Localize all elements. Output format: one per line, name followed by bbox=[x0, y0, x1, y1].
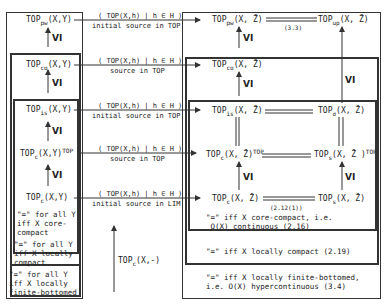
node-base: TOP bbox=[212, 106, 226, 115]
node-base: TOP bbox=[314, 150, 328, 159]
right-node-pw: TOPpw(X, Z̄) bbox=[212, 15, 263, 24]
node-sup: TOP bbox=[62, 147, 73, 154]
right-node-is: TOPis(X, Z̄) bbox=[212, 106, 263, 115]
node-sup: TOP bbox=[253, 148, 264, 155]
node-base: TOP bbox=[26, 105, 40, 114]
node-sub: up bbox=[332, 19, 339, 26]
node-arg: (X, Z̄) bbox=[230, 194, 259, 203]
right-vi-2: VI bbox=[243, 79, 253, 89]
mid-family-2: ( TOP(X,h) | h ∈ H ) bbox=[98, 57, 182, 65]
right-vi-3: VI bbox=[243, 172, 253, 182]
node-arg: (X, Z̄) bbox=[336, 194, 365, 203]
right-vi-4: VI bbox=[345, 172, 355, 182]
node-base: TOP bbox=[20, 149, 34, 158]
node-sub: pw bbox=[226, 19, 233, 26]
left-node-c-top: TOPc(X,Y)TOP bbox=[20, 149, 73, 158]
right-note-core-compact: "=" iff X core-compact, i.e. O(X) contin… bbox=[206, 213, 332, 231]
node-base: TOP bbox=[318, 15, 332, 24]
mid-caption-5: initial source in LIM bbox=[92, 200, 181, 208]
left-vi-2: VI bbox=[52, 78, 62, 88]
node-sub: pw bbox=[40, 19, 47, 26]
right-node-up: TOPup(X, Z̄) bbox=[318, 15, 369, 24]
node-sub: is bbox=[40, 109, 47, 116]
left-node-c: TOPc(X,Y) bbox=[26, 193, 68, 202]
ref-3-3: (3.3) bbox=[284, 24, 302, 31]
right-node-c: TOPc(X, Z̄) bbox=[212, 194, 259, 203]
left-vi-1: VI bbox=[52, 33, 62, 43]
node-arg: (X,Y) bbox=[38, 149, 62, 158]
node-sup: TOP bbox=[366, 148, 377, 155]
right-node-co: TOPco(X, Z̄) bbox=[212, 60, 263, 69]
node-base: TOP bbox=[26, 193, 40, 202]
node-base: TOP bbox=[212, 194, 226, 203]
mid-family-5: ( TOP(X,h) | h ∈ H ) bbox=[98, 190, 182, 198]
left-note-locally-compact: "=" for all Y iff X locally compact bbox=[14, 240, 73, 267]
right-node-s: TOPs(X, Z̄) bbox=[318, 194, 365, 203]
node-arg: (X, Z̄) bbox=[234, 106, 263, 115]
node-arg: (X, Z̄) bbox=[234, 15, 263, 24]
right-note-locally-compact: "=" iff X locally compact (2.19) bbox=[206, 247, 351, 256]
left-note-core-compact: "=" for all Y iff X core- compact bbox=[17, 210, 76, 237]
node-arg: (X, Z̄) bbox=[336, 106, 365, 115]
mid-family-1: ( TOP(X,h) | h ∈ H ) bbox=[98, 12, 182, 20]
node-sub: is bbox=[226, 110, 233, 117]
node-arg: (X,Y) bbox=[44, 193, 68, 202]
mid-caption-4: source in TOP bbox=[110, 155, 165, 163]
node-base: TOP bbox=[318, 194, 332, 203]
node-base: TOP bbox=[26, 15, 40, 24]
mid-family-3: ( TOP(X,h) | h ∈ H ) bbox=[98, 102, 182, 110]
node-base: TOP bbox=[206, 150, 220, 159]
node-sub: co bbox=[226, 64, 233, 71]
node-arg: (X, Z̄) bbox=[340, 15, 369, 24]
left-note-locally-finite-bottomed: "=" for all Y iff X locally finite-botto… bbox=[9, 270, 77, 297]
right-vi-1: VI bbox=[243, 33, 253, 43]
node-base: TOP bbox=[118, 256, 132, 265]
node-arg: (X,-) bbox=[136, 256, 160, 265]
node-arg: (X, Z̄ ) bbox=[332, 150, 366, 159]
node-arg: (X,Y) bbox=[48, 15, 72, 24]
node-base: TOP bbox=[26, 60, 40, 69]
mid-caption-3: initial source in TOP bbox=[92, 112, 181, 120]
node-base: TOP bbox=[212, 15, 226, 24]
right-node-c-top: TOPc(X, Z̄)TOP bbox=[206, 150, 264, 159]
left-vi-3: VI bbox=[52, 126, 62, 136]
right-node-sigma: TOPσ(X, Z̄) bbox=[318, 106, 365, 115]
node-arg: (X,Y) bbox=[48, 60, 72, 69]
left-vi-4: VI bbox=[52, 170, 62, 180]
right-note-locally-finite-bottomed: "=" iff X locally finite-bottomed, i.e. … bbox=[206, 273, 360, 291]
node-base: TOP bbox=[318, 106, 332, 115]
ref-2-12-1: (2.12(1)) bbox=[270, 204, 303, 211]
left-node-co: TOPco(X,Y) bbox=[26, 60, 72, 69]
right-node-s-top: TOPs(X, Z̄ )TOP bbox=[314, 150, 377, 159]
node-base: TOP bbox=[212, 60, 226, 69]
right-vi-far: VI bbox=[345, 75, 355, 85]
mid-caption-1: initial source in TOP bbox=[92, 22, 181, 30]
left-node-pw: TOPpw(X,Y) bbox=[26, 15, 72, 24]
mid-family-4: ( TOP(X,h) | h ∈ H ) bbox=[98, 145, 182, 153]
node-arg: (X, Z̄) bbox=[224, 150, 253, 159]
node-arg: (X, Z̄) bbox=[234, 60, 263, 69]
functor-label: TOPc(X,-) bbox=[118, 256, 160, 265]
left-node-is: TOPis(X,Y) bbox=[26, 105, 72, 114]
node-arg: (X,Y) bbox=[48, 105, 72, 114]
mid-caption-2: source in TOP bbox=[110, 67, 165, 75]
node-sub: co bbox=[40, 64, 47, 71]
